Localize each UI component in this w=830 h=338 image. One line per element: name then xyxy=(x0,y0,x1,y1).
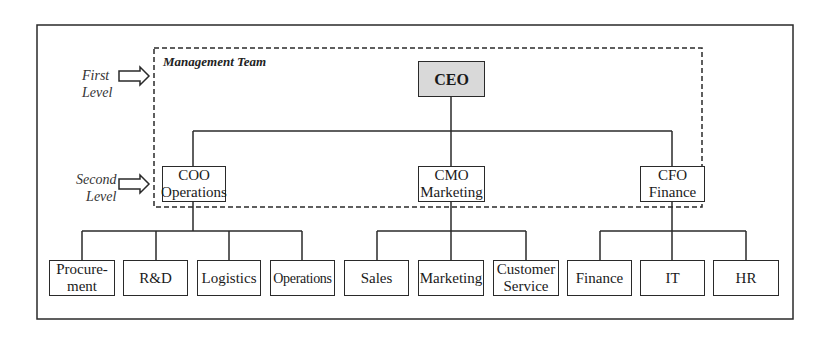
coo-dept: Operations xyxy=(161,184,227,201)
dept-label: Marketing xyxy=(420,270,482,287)
coo-title: COO xyxy=(178,167,210,184)
dept-rnd: R&D xyxy=(123,260,188,296)
dept-label: R&D xyxy=(139,270,172,287)
dept-customer-service: Customer Service xyxy=(493,260,559,296)
dept-marketing: Marketing xyxy=(418,260,484,296)
dept-label-line1: Customer xyxy=(497,261,555,278)
dept-label-line2: Service xyxy=(504,278,549,295)
dept-it: IT xyxy=(640,260,705,296)
dept-label: Logistics xyxy=(202,270,257,287)
dept-label-line2: ment xyxy=(67,278,97,295)
dept-label-line1: Procure- xyxy=(56,261,108,278)
dept-label: Finance xyxy=(576,270,623,287)
second-level-label: Second Level xyxy=(76,171,116,205)
first-level-arrow-icon xyxy=(119,67,149,85)
cmo-node: CMO Marketing xyxy=(418,166,485,202)
dept-hr: HR xyxy=(713,260,779,296)
dept-procurement: Procure- ment xyxy=(49,260,115,296)
second-level-line1: Second xyxy=(76,171,116,188)
dept-label: Operations xyxy=(273,270,331,287)
dept-label: Sales xyxy=(361,270,393,287)
cfo-title: CFO xyxy=(658,167,687,184)
dept-finance: Finance xyxy=(567,260,632,296)
cmo-dept: Marketing xyxy=(420,184,482,201)
dept-label: HR xyxy=(736,270,757,287)
ceo-title: CEO xyxy=(434,71,469,88)
dept-label: IT xyxy=(665,270,679,287)
coo-node: COO Operations xyxy=(162,166,226,202)
dept-sales: Sales xyxy=(344,260,409,296)
first-level-line1: First xyxy=(82,67,112,84)
cfo-dept: Finance xyxy=(649,184,696,201)
ceo-node: CEO xyxy=(418,61,485,97)
cmo-title: CMO xyxy=(434,167,468,184)
dept-logistics: Logistics xyxy=(197,260,261,296)
first-level-label: First Level xyxy=(82,67,112,101)
second-level-line2: Level xyxy=(76,188,116,205)
dept-operations: Operations xyxy=(270,260,335,296)
management-team-label: Management Team xyxy=(163,54,266,70)
first-level-line2: Level xyxy=(82,84,112,101)
second-level-arrow-icon xyxy=(119,175,149,193)
cfo-node: CFO Finance xyxy=(640,166,705,202)
